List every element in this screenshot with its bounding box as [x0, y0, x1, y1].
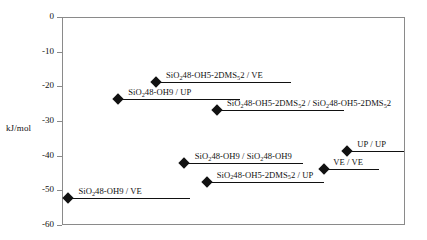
energy-level-line	[118, 99, 240, 100]
energy-level-line	[68, 198, 190, 199]
y-axis-tick-label: -50	[18, 185, 54, 194]
energy-level-marker	[201, 176, 212, 187]
y-axis-tick-label: -30	[18, 116, 54, 125]
energy-level-chart: kJ/mol 0-10-20-30-40-50-60 SiO248-OH5-2D…	[0, 0, 427, 240]
y-axis-tick-label: 0	[18, 12, 54, 21]
energy-level-marker	[319, 163, 330, 174]
energy-level-marker	[341, 146, 352, 157]
energy-level-label: SiO248-OH5-2DMS52 / SiO248-OH5-2DMS52	[227, 99, 391, 108]
energy-level-line	[324, 169, 378, 170]
energy-level-marker	[150, 76, 161, 87]
energy-level-label: SiO248-OH5-2DMS52 / UP	[217, 171, 314, 180]
energy-level-line	[217, 110, 344, 111]
y-axis-tick-label: -10	[18, 47, 54, 56]
y-axis-tick-label: -40	[18, 151, 54, 160]
y-axis-tick-mark	[57, 225, 62, 226]
energy-level-marker	[62, 193, 73, 204]
y-axis-tick-label: -20	[18, 81, 54, 90]
energy-level-label: SiO248-OH9 / VE	[78, 187, 141, 196]
plot-area: SiO248-OH5-2DMS52 / VESiO248-OH9 / UPSiO…	[62, 17, 405, 225]
energy-level-line	[156, 82, 291, 83]
energy-level-marker	[112, 93, 123, 104]
energy-level-label: VE / VE	[333, 158, 363, 167]
energy-level-label: UP / UP	[357, 140, 386, 149]
energy-level-label: SiO248-OH9 / UP	[128, 88, 191, 97]
energy-level-label: SiO248-OH9 / SiO248-OH9	[195, 152, 292, 161]
energy-level-line	[207, 182, 324, 183]
energy-level-line	[347, 151, 404, 152]
energy-level-label: SiO248-OH5-2DMS52 / VE	[166, 71, 263, 80]
energy-level-marker	[212, 105, 223, 116]
energy-level-marker	[179, 158, 190, 169]
y-axis-tick-label: -60	[18, 220, 54, 229]
energy-level-line	[184, 163, 303, 164]
